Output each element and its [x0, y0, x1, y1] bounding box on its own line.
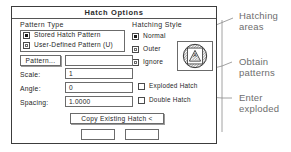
radio-normal[interactable]: Normal: [132, 33, 166, 40]
dialog-title: Hatch Options: [84, 9, 143, 17]
radio-indicator-icon: [132, 59, 139, 66]
copy-existing-hatch-button[interactable]: Copy Existing Hatch <: [70, 113, 164, 124]
hatching-style-radio-group: Normal Outer Ignore: [132, 33, 166, 72]
radio-user-defined-pattern[interactable]: User-Defined Pattern (U): [23, 42, 113, 49]
checkbox-indicator-icon: [138, 83, 145, 90]
svg-text:A: A: [193, 52, 197, 58]
radio-label: Normal: [143, 33, 166, 40]
cancel-button[interactable]: [125, 129, 159, 140]
annotation-hatching-areas: Hatching areas: [239, 10, 278, 32]
radio-stored-hatch-pattern[interactable]: Stored Hatch Pattern: [23, 32, 101, 39]
annotation-line: patterns: [239, 67, 275, 78]
hatch-options-dialog: Hatch Options Pattern Type Stored Hatch …: [11, 6, 217, 144]
radio-label: User-Defined Pattern (U): [34, 42, 113, 49]
pattern-value-field[interactable]: [65, 55, 133, 66]
angle-input[interactable]: 0: [65, 82, 133, 93]
hatching-style-preview: A: [177, 41, 213, 71]
hatching-style-group-label: Hatching Style: [132, 21, 182, 28]
annotation-line: Obtain: [239, 56, 275, 67]
checkbox-indicator-icon: [138, 97, 145, 104]
radio-label: Stored Hatch Pattern: [34, 32, 101, 39]
radio-indicator-icon: [23, 42, 30, 49]
radio-ignore[interactable]: Ignore: [132, 59, 166, 66]
annotation-enter-exploded: Enter exploded: [239, 92, 279, 114]
angle-label: Angle:: [20, 85, 41, 92]
ok-button[interactable]: [81, 129, 115, 140]
checkbox-exploded-hatch[interactable]: Exploded Hatch: [138, 83, 198, 90]
checkbox-label: Exploded Hatch: [149, 83, 198, 89]
spacing-label: Spacing:: [20, 99, 48, 106]
annotation-line: areas: [239, 21, 278, 32]
checkbox-label: Double Hatch: [149, 97, 191, 103]
checkbox-double-hatch[interactable]: Double Hatch: [138, 97, 191, 104]
spacing-input[interactable]: 1.0000: [65, 96, 133, 107]
radio-label: Outer: [143, 46, 161, 53]
radio-label: Ignore: [143, 59, 163, 66]
dialog-titlebar: Hatch Options: [12, 7, 216, 19]
annotation-line: Enter: [239, 92, 279, 103]
annotation-obtain-patterns: Obtain patterns: [239, 56, 275, 78]
annotation-line: exploded: [239, 103, 279, 114]
radio-outer[interactable]: Outer: [132, 46, 166, 53]
scale-label: Scale:: [20, 71, 40, 78]
radio-indicator-icon: [23, 32, 30, 39]
radio-indicator-icon: [132, 46, 139, 53]
hatch-preview-icon: A: [178, 42, 212, 70]
scale-input[interactable]: 1: [65, 68, 133, 79]
radio-indicator-icon: [132, 33, 139, 40]
annotation-line: Hatching: [239, 10, 278, 21]
pattern-button[interactable]: Pattern...: [20, 55, 61, 66]
pattern-type-group-label: Pattern Type: [20, 21, 64, 28]
